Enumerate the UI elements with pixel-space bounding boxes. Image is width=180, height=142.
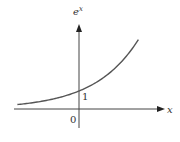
x-axis-label: x [167, 104, 173, 115]
exponential-plot: x ex 1 0 [0, 0, 180, 142]
series-line-exp [17, 40, 138, 105]
y-axis-label: ex [73, 5, 83, 17]
y-axis-label-superscript: x [79, 5, 83, 13]
y-intercept-label: 1 [82, 91, 88, 102]
y-axis-arrowhead-icon [76, 24, 82, 32]
x-axis-arrowhead-icon [157, 106, 165, 112]
origin-label: 0 [70, 114, 76, 125]
